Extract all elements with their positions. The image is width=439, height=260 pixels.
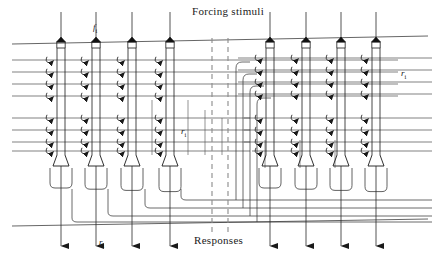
- neuron-axon-hillock: [162, 155, 178, 166]
- neuron-cap-triangle: [92, 37, 101, 42]
- neuron-axon-hillock: [333, 155, 349, 166]
- neuron-soma-box: [128, 42, 136, 48]
- neuron-soma-box: [302, 42, 310, 48]
- neuron-axon-hillock: [88, 155, 104, 166]
- wiring-layer: [12, 36, 432, 226]
- feedback-return-line: [145, 189, 432, 208]
- neuron-cap-triangle: [57, 37, 66, 42]
- figure-canvas: Forcing stimuli Responses fiririri: [0, 0, 439, 260]
- neuron-soma-box: [92, 42, 100, 48]
- neuron-soma-box: [372, 42, 380, 48]
- neuron: [162, 12, 178, 246]
- neuron: [333, 12, 349, 246]
- neuron-cap-triangle: [128, 37, 137, 42]
- neuron-cap-triangle: [372, 37, 381, 42]
- neuron-soma-box: [266, 42, 274, 48]
- separator-layer: [212, 38, 228, 232]
- neuron: [53, 12, 69, 246]
- neuron: [262, 12, 278, 246]
- feedback-return-line: [181, 189, 432, 200]
- response-label-ri-mid: ri: [181, 126, 186, 138]
- neuron: [88, 12, 104, 246]
- neuron-axon-hillock: [262, 155, 278, 166]
- response-label-ri-right: ri: [401, 68, 406, 80]
- neuron-axon-hillock: [368, 155, 384, 166]
- responses-title: Responses: [194, 234, 243, 246]
- neuron-cap-triangle: [302, 37, 311, 42]
- neuron-axon-hillock: [124, 155, 140, 166]
- neuron-cap-triangle: [166, 37, 175, 42]
- top-boundary-line: [12, 36, 428, 44]
- stimulus-label-fi: fi: [93, 22, 97, 34]
- neuron-soma-box: [166, 42, 174, 48]
- neuron: [368, 12, 384, 246]
- diagram-svg: [0, 0, 439, 260]
- neuron: [298, 12, 314, 246]
- bottom-boundary-line: [12, 219, 428, 226]
- neuron-layer: [46, 12, 384, 246]
- forcing-stimuli-title: Forcing stimuli: [192, 5, 264, 17]
- neuron-axon-hillock: [298, 155, 314, 166]
- neuron-axon-hillock: [53, 155, 69, 166]
- response-label-ri-bottom: ri: [99, 237, 104, 249]
- neuron: [124, 12, 140, 246]
- feedback-return-line: [72, 189, 432, 222]
- neuron-soma-box: [337, 42, 345, 48]
